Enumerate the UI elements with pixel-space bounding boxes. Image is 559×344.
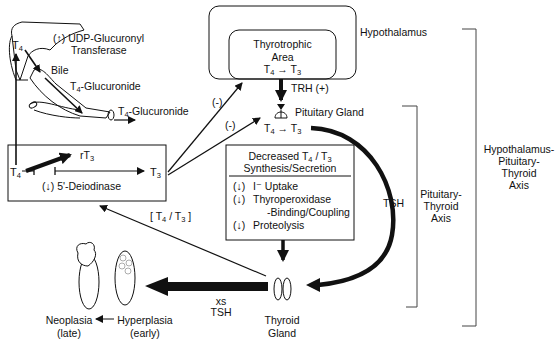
thyrotrophic-label: Thyrotrophic [229,38,336,50]
bile-glucuronide-label: T4-Glucuronide [70,80,141,92]
trh-label: TRH (+) [291,82,329,94]
item-text-2: -Binding/Coupling [267,206,350,218]
hpt-axis-bracket [462,29,476,326]
t4-t3-ratio-label: [ T4 / T3 ] [150,210,191,222]
thyroid-label-1: Thyroid [257,314,307,326]
feedback-pituitary-label: (-) [225,119,236,131]
item-text-3: Proteolysis [253,219,304,231]
box-t4-label: T4 [10,166,21,178]
hyperplasia-stage: (early) [115,327,175,339]
thyroid-lobe-right [283,278,291,300]
hyperplasia-label: Hyperplasia [115,314,175,326]
bile-duct [30,69,110,118]
pituitary-thyroid-axis-1: Pituitary- [419,188,463,200]
item-text-0: I⁻ Uptake [253,180,298,192]
hypothalamus-conversion: T4 → T3 [229,63,336,75]
bile-label: Bile [51,64,69,76]
gut-glucuronide-label: T4-Glucuronide [118,105,189,117]
pituitary-icon [275,104,287,118]
item-arrow-1: (↓) [233,193,245,205]
tumor [77,242,96,266]
hpt-axis-1: Hypothalamus- [479,143,559,155]
hyperplasia-gland [115,251,135,305]
pituitary-thyroid-axis-2: Thyroid [419,200,463,212]
item-text-1: Thyroperoxidase [253,193,331,205]
synthesis-title-1: Decreased T4 / T3 [226,150,354,162]
pituitary-thyroid-axis-3: Axis [419,212,463,224]
rt3-label: rT3 [80,149,94,161]
udp-enzyme-label: (↑) UDP-Glucuronyl [53,32,144,44]
thyroid-lobe-left [274,278,282,300]
tsh-curve-label: TSH [383,197,404,209]
item-arrow-0: (↓) [233,180,245,192]
neoplasia-stage: (late) [44,327,94,339]
deiodinase-label: (↓) 5'-Deiodinase [42,180,121,192]
item-arrow-3: (↓) [233,219,245,231]
xs-tsh-label: TSH [206,306,236,318]
feedback-hypothalamus-label: (-) [212,96,223,108]
area-label: Area [229,51,336,63]
hypothalamus-label: Hypothalamus [360,26,427,38]
neoplasia-label: Neoplasia [44,314,94,326]
hpt-axis-2: Pituitary- [479,155,559,167]
pituitary-thyroid-bracket [402,106,417,307]
box-t3-label: T3 [150,166,161,178]
thyroid-label-2: Gland [257,327,307,339]
liver-t4-label: T4 [12,39,23,51]
udp-enzyme-label-2: Transferase [71,44,127,56]
pituitary-conversion: T4 → T3 [264,122,301,134]
pituitary-label: Pituitary Gland [295,106,364,118]
synthesis-title-2: Synthesis/Secretion [226,162,354,174]
hpt-axis-4: Axis [479,179,559,191]
hpt-axis-3: Thyroid [479,167,559,179]
